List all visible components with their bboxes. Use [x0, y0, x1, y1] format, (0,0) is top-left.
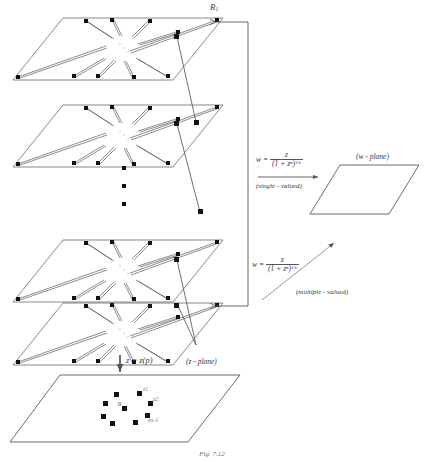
z-point-label-n-1: zn-1	[148, 417, 158, 423]
w-plane-label: (w - plane)	[356, 152, 389, 161]
sheet-3	[13, 240, 223, 302]
branch-label-R: R1	[210, 2, 218, 12]
multiple-valued-equation: w = z (1 + zⁿ)1/n	[252, 256, 299, 273]
sheet-ellipsis	[122, 166, 126, 206]
riemann-surface-figure: R1 w = z (1 + zⁿ)1/n (single - valued) w…	[0, 0, 424, 462]
single-valued-equation: w = z (1 + zⁿ)1/n	[256, 151, 303, 168]
z-point-label-1: z1	[143, 386, 148, 392]
w-plane	[310, 165, 419, 214]
origin-label: 0	[118, 400, 121, 407]
sheet-4	[13, 303, 223, 365]
sheet-connectors	[177, 37, 200, 345]
single-valued-note: (single - valued)	[256, 182, 302, 190]
figure-caption: Fig. 7.12	[0, 450, 424, 458]
multiple-valued-note: (multiple - valued)	[296, 288, 348, 296]
figure-canvas	[0, 0, 424, 462]
projection-label: z = z(p)	[126, 355, 153, 365]
cyclic-identification-line	[216, 22, 248, 306]
sheet-1	[13, 18, 223, 80]
z-plane-label: (z - plane)	[186, 357, 217, 366]
z-point-label-2: z2	[153, 396, 158, 402]
sheet-2	[13, 105, 223, 167]
z-plane-points	[101, 391, 153, 426]
